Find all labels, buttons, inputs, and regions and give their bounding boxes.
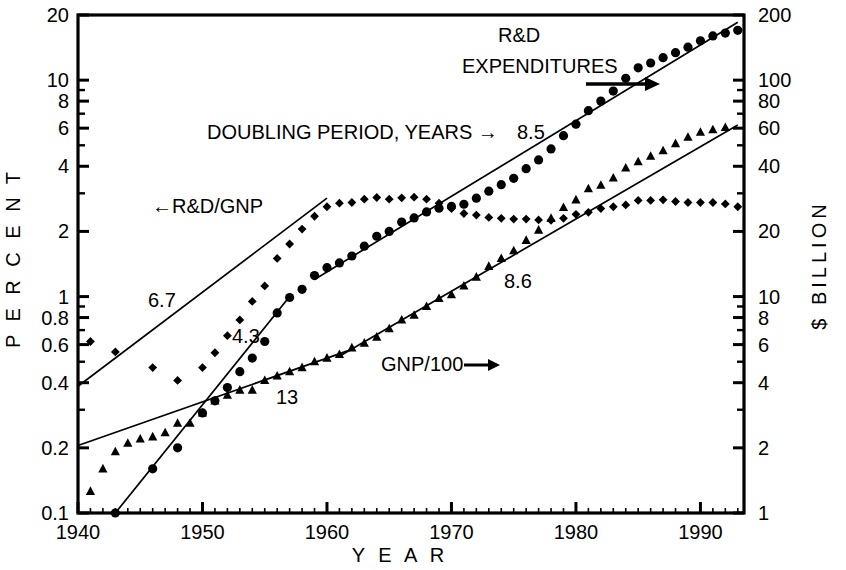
x-tick-label: 1970 <box>429 521 474 543</box>
data-point <box>385 227 394 236</box>
annotation-gnp-label: GNP/100 <box>381 353 463 375</box>
data-point <box>422 207 431 216</box>
data-point <box>360 242 369 251</box>
y2-tick-label: 8 <box>758 307 769 329</box>
y-tick-label: 4 <box>58 155 69 177</box>
data-point <box>235 367 244 376</box>
annotation-doubling-6-7: 6.7 <box>148 289 176 311</box>
data-point <box>410 213 419 222</box>
data-point <box>397 217 406 226</box>
y2-tick-label: 40 <box>758 155 780 177</box>
data-point <box>285 293 294 302</box>
data-point <box>534 155 543 164</box>
data-point <box>447 202 456 211</box>
y-tick-label: 10 <box>47 69 69 91</box>
annotation-rd-exp-label-1: R&D <box>498 24 540 46</box>
data-point <box>584 106 593 115</box>
y2-tick-label: 1 <box>758 502 769 524</box>
chart-figure: 0.10.20.40.60.8124681020 124681020406080… <box>0 0 846 570</box>
data-point <box>522 164 531 173</box>
data-point <box>248 353 257 362</box>
y-tick-label: 2 <box>58 220 69 242</box>
data-point <box>646 58 655 67</box>
annotation-doubling-8-6: 8.6 <box>504 270 532 292</box>
data-point <box>634 63 643 72</box>
y2-tick-label: 100 <box>758 69 791 91</box>
annotation-doubling-8-5: 8.5 <box>517 121 545 143</box>
y-tick-label: 20 <box>47 4 69 26</box>
y-tick-label: 8 <box>58 90 69 112</box>
data-point <box>322 263 331 272</box>
data-point <box>559 131 568 140</box>
data-point <box>683 43 692 52</box>
y2-tick-label: 60 <box>758 117 780 139</box>
annotation-rd-exp-label-2: EXPENDITURES <box>462 55 618 77</box>
y2-tick-label: 2 <box>758 437 769 459</box>
data-point <box>434 204 443 213</box>
y-axis-title: P E R C E N T <box>2 168 24 348</box>
chart-background <box>0 0 846 570</box>
y2-tick-label: 6 <box>758 334 769 356</box>
x-tick-label: 1950 <box>180 521 225 543</box>
data-point <box>733 26 742 35</box>
y2-tick-label: 20 <box>758 220 780 242</box>
data-point <box>596 97 605 106</box>
annotation-doubling-4-3: 4.3 <box>232 325 260 347</box>
x-tick-label: 1990 <box>678 521 723 543</box>
y2-tick-label: 200 <box>758 4 791 26</box>
data-point <box>335 258 344 267</box>
data-point <box>260 337 269 346</box>
y-tick-label: 6 <box>58 117 69 139</box>
x-axis-title: Y E A R <box>352 544 449 566</box>
data-point <box>111 508 120 517</box>
data-point <box>609 87 618 96</box>
data-point <box>571 120 580 129</box>
data-point <box>671 48 680 57</box>
y-tick-label: 0.8 <box>41 307 69 329</box>
y-tick-label: 0.2 <box>41 437 69 459</box>
x-tick-label: 1980 <box>554 521 599 543</box>
y2-axis-title: $ BILLION <box>808 200 830 329</box>
data-point <box>708 31 717 40</box>
data-point <box>509 174 518 183</box>
y2-tick-label: 10 <box>758 286 780 308</box>
annotation-rd-gnp-label: ←R&D/GNP <box>152 195 263 217</box>
x-tick-label: 1940 <box>56 521 101 543</box>
y2-tick-label: 4 <box>758 372 769 394</box>
data-point <box>721 28 730 37</box>
data-point <box>310 271 319 280</box>
data-point <box>621 74 630 83</box>
data-point <box>472 194 481 203</box>
data-point <box>484 187 493 196</box>
rd-expenditures-chart: 0.10.20.40.60.8124681020 124681020406080… <box>0 0 846 570</box>
data-point <box>297 285 306 294</box>
annotation-doubling-period: DOUBLING PERIOD, YEARS → <box>207 121 498 143</box>
y2-tick-label: 80 <box>758 90 780 112</box>
data-point <box>696 36 705 45</box>
data-point <box>497 180 506 189</box>
data-point <box>459 200 468 209</box>
data-point <box>658 53 667 62</box>
y-tick-label: 1 <box>58 286 69 308</box>
data-point <box>148 464 157 473</box>
data-point <box>173 443 182 452</box>
y-tick-label: 0.4 <box>41 372 69 394</box>
annotation-doubling-13: 13 <box>276 386 298 408</box>
data-point <box>546 144 555 153</box>
data-point <box>372 232 381 241</box>
data-point <box>347 251 356 260</box>
y-tick-label: 0.6 <box>41 334 69 356</box>
x-tick-label: 1960 <box>305 521 350 543</box>
data-point <box>273 308 282 317</box>
